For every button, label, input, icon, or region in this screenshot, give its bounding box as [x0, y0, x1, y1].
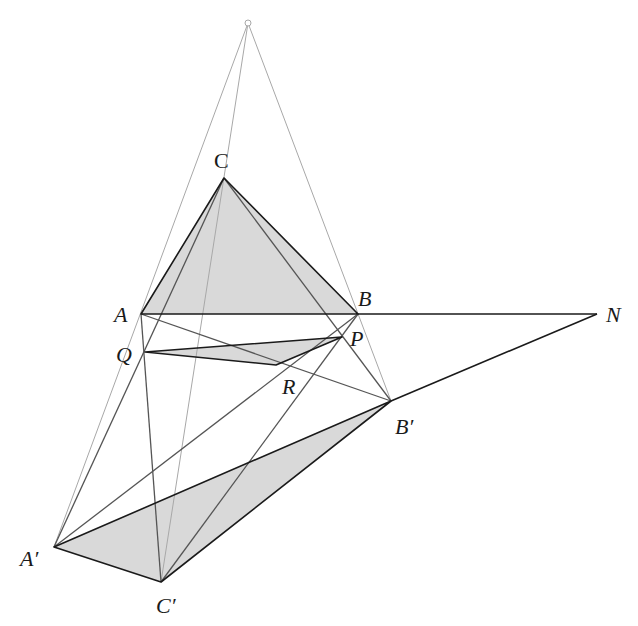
- label-c: C: [214, 148, 229, 173]
- label-q: Q: [116, 342, 132, 367]
- axis-line-b1-n: [391, 314, 597, 401]
- label-a1: A′: [18, 546, 39, 571]
- desargues-diagram: ABCA′B′C′PQRN: [0, 0, 638, 626]
- label-a: A: [112, 302, 128, 327]
- center-of-perspectivity: [245, 20, 251, 26]
- label-r: R: [281, 374, 296, 399]
- label-b1: B′: [395, 414, 414, 439]
- label-p: P: [349, 326, 363, 351]
- triangle-abc-fill: [141, 178, 358, 314]
- label-c1: C′: [156, 593, 177, 618]
- label-b: B: [358, 286, 371, 311]
- triangle-pqr-fill: [145, 337, 342, 365]
- label-n: N: [605, 302, 622, 327]
- apex-point-icon: [245, 20, 251, 26]
- triangle-a1b1c1-fill: [54, 401, 391, 582]
- triangle-fills: [54, 178, 391, 582]
